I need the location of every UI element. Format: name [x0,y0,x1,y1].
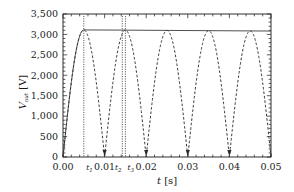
x-axis-unit: [s] [161,175,177,186]
y-tick-label: 1,500 [31,90,58,101]
y-tick-label: 500 [40,131,58,142]
x-tick-label: 0.02 [136,161,157,172]
y-axis-title: Vout [V] [17,75,29,110]
y-tick-label: 2,500 [31,49,58,60]
figure-container: 05001,0001,5002,0002,5003,0003,500 0.000… [0,0,294,192]
y-tick-label: 3,000 [31,29,58,40]
y-tick-label: 1,000 [31,110,58,121]
svg-text:t [s]: t [s] [157,175,177,186]
x-axis-title: t [s] [157,175,177,186]
y-tick-label: 2,000 [31,70,58,81]
x-tick-label: 0.00 [52,161,73,172]
x-tick-label: 0.01 [94,161,115,172]
rectifier-output-chart: 05001,0001,5002,0002,5003,0003,500 0.000… [0,0,294,192]
x-tick-label: 0.05 [260,161,281,172]
x-tick-label: 0.04 [219,161,240,172]
x-tick-label: 0.03 [177,161,198,172]
y-tick-label: 3,500 [31,8,58,19]
y-axis-unit: [V] [17,75,28,93]
svg-text:Vout [V]: Vout [V] [17,75,29,110]
